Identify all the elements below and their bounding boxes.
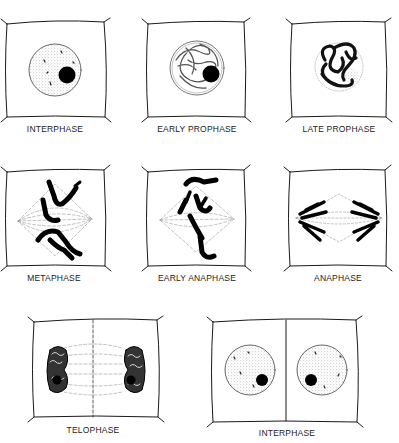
chromosomes-left <box>300 202 326 240</box>
metaphase-cell <box>1 165 111 271</box>
early-anaphase-cell <box>142 165 251 271</box>
nucleus-right <box>297 345 347 395</box>
stage-label-metaphase: METAPHASE <box>27 273 81 283</box>
interphase-2-cells <box>207 316 363 427</box>
nucleolus <box>203 66 220 83</box>
stage-label-anaphase: ANAPHASE <box>314 273 362 283</box>
stage-label-late-prophase: LATE PROPHASE <box>303 124 376 134</box>
diagram-canvas <box>0 0 399 443</box>
daughter-nucleus-right <box>124 347 145 393</box>
late-prophase-cell <box>286 18 392 122</box>
stage-label-early-anaphase: EARLY ANAPHASE <box>158 273 236 283</box>
stage-label-interphase-1: INTERPHASE <box>27 124 83 134</box>
nucleus-left <box>225 345 275 395</box>
telophase-cell <box>28 316 164 422</box>
mitosis-diagram: INTERPHASE EARLY PROPHASE LATE PROPHASE … <box>0 0 399 443</box>
early-prophase-cell <box>142 18 251 122</box>
stage-label-interphase-2: INTERPHASE <box>259 428 315 438</box>
stage-label-early-prophase: EARLY PROPHASE <box>157 124 237 134</box>
anaphase-cell <box>284 165 392 271</box>
interphase-1-cell <box>1 18 111 122</box>
stage-label-telophase: TELOPHASE <box>67 425 120 435</box>
chromosomes-right <box>352 202 378 240</box>
nucleolus <box>59 67 76 84</box>
